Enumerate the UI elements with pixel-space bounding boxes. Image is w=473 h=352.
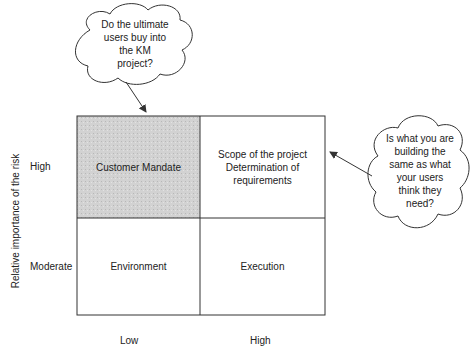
callout-line: project? (95, 57, 175, 70)
callout-line: your users (378, 171, 462, 184)
callout-line: Is what you are (378, 132, 462, 145)
x-label-low: Low (120, 334, 138, 347)
cell-environment: Environment (77, 218, 200, 315)
cell-line: Determination of (226, 161, 299, 174)
cell-customer-mandate: Customer Mandate (77, 116, 200, 218)
callout-line: Do the ultimate (95, 18, 175, 31)
callout-line: think they (378, 184, 462, 197)
cell-line: requirements (233, 174, 291, 187)
callout-right-text: Is what you are building the same as wha… (378, 132, 462, 210)
callout-top-text: Do the ultimate users buy into the KM pr… (95, 18, 175, 70)
callout-line: need? (378, 197, 462, 210)
y-label-high: High (30, 160, 51, 173)
cell-line: Scope of the project (218, 148, 307, 161)
arrow-top (126, 82, 146, 112)
callout-line: the KM (95, 44, 175, 57)
cell-label: Customer Mandate (96, 161, 181, 174)
callout-line: users buy into (95, 31, 175, 44)
cell-execution: Execution (200, 218, 325, 315)
callout-line: same as what (378, 158, 462, 171)
cell-scope: Scope of the project Determination of re… (200, 116, 325, 218)
x-label-high: High (250, 334, 271, 347)
callout-line: building the (378, 145, 462, 158)
y-axis-title: Relative importance of the risk (10, 126, 24, 316)
arrow-right (330, 152, 372, 176)
cell-label: Execution (241, 260, 285, 273)
y-label-moderate: Moderate (30, 260, 72, 273)
cell-label: Environment (110, 260, 166, 273)
